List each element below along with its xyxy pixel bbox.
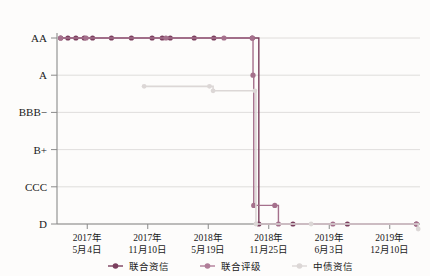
credit-rating-chart: AAABBB−B+CCCD 2017年5月4日2017年11月10日2018年5… [0,0,430,276]
data-point [272,203,277,208]
data-point [254,222,259,227]
data-point [83,35,88,40]
data-point [211,88,216,93]
x-axis-label-year: 2018年 [194,232,223,243]
chart-svg: AAABBB−B+CCCD 2017年5月4日2017年11月10日2018年5… [0,0,430,276]
data-point [142,84,147,89]
x-axis-label-date: 11月10日 [128,245,167,255]
data-point [250,35,255,40]
chart-legend: 联合资信联合评级中债资信 [108,261,353,272]
x-axis-label-year: 2018年 [254,232,283,243]
legend-marker [205,263,211,269]
data-point [207,84,212,89]
legend-label[interactable]: 联合评级 [221,261,261,272]
x-axis-label-date: 12月10日 [370,245,409,255]
data-point [58,35,63,40]
x-axis-label-year: 2017年 [73,232,102,243]
y-axis-label: BBB− [19,106,47,118]
data-point [309,222,314,227]
legend-label[interactable]: 联合资信 [129,261,169,272]
y-axis-label: CCC [25,181,47,193]
x-axis-label-year: 2017年 [133,232,162,243]
data-point [416,227,421,232]
legend-marker [297,263,303,269]
y-axis-label: D [39,218,47,230]
y-axis-label: AA [31,32,47,44]
x-axis-label-year: 2019年 [315,232,344,243]
data-point [221,35,226,40]
x-axis-label-date: 6月3日 [315,245,345,255]
legend-marker [113,263,119,269]
y-axis-label: A [39,69,47,81]
data-point [252,88,257,93]
x-axis-label-date: 11月25日 [249,245,288,255]
x-axis-label-date: 5月4日 [73,245,103,255]
y-axis-label: B+ [33,144,47,156]
legend-label[interactable]: 中债资信 [313,261,353,272]
data-point [250,73,255,78]
x-axis-label-year: 2019年 [375,232,404,243]
x-axis-label-date: 5月19日 [191,245,225,255]
data-point [163,35,168,40]
